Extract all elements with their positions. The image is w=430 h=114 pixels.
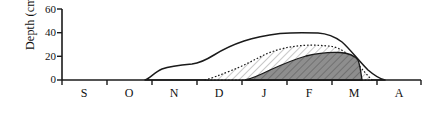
y-tick-label-20: 20 [34,50,56,62]
x-tick-label-j: J [247,86,281,101]
y-tick-label-40: 40 [34,26,56,38]
x-tick-label-s: S [67,86,101,101]
x-tick-label-m: M [337,86,371,101]
x-tick-label-a: A [382,86,416,101]
x-tick-label-f: F [292,86,326,101]
y-tick-label-60: 60 [34,3,56,15]
x-tick-label-o: O [112,86,146,101]
y-tick-label-0: 0 [34,73,56,85]
x-tick-label-n: N [157,86,191,101]
snow-depth-figure: Depth (cm) 60 40 20 0 S O N D J F M A [0,0,430,114]
x-tick-label-d: D [202,86,236,101]
